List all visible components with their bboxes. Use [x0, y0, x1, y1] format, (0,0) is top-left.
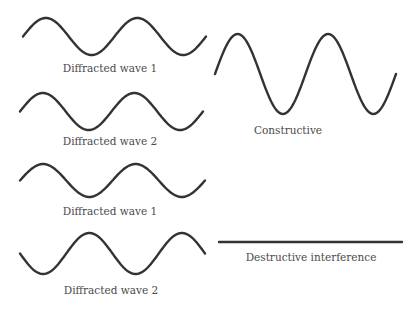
constructive-input-wave-1 [23, 18, 206, 55]
constructive-input-wave-2-label: Diffracted wave 2 [63, 135, 157, 147]
destructive-input-wave-1 [20, 164, 205, 197]
interference-diagram: Diffracted wave 1 Diffracted wave 2 Cons… [0, 0, 420, 309]
destructive-input-wave-2 [20, 233, 205, 274]
constructive-input-wave-1-label: Diffracted wave 1 [63, 62, 157, 74]
destructive-input-wave-1-label: Diffracted wave 1 [63, 205, 157, 217]
constructive-result-wave [215, 34, 396, 114]
destructive-input-wave-2-label: Diffracted wave 2 [64, 284, 158, 296]
constructive-result-label: Constructive [254, 124, 322, 136]
constructive-input-wave-2 [20, 93, 203, 130]
destructive-result-label: Destructive interference [246, 251, 377, 263]
